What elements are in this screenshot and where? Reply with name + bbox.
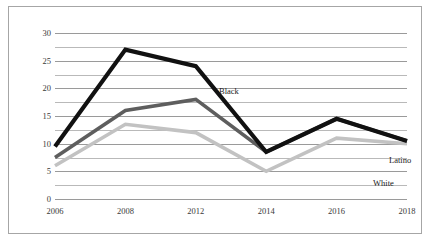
x-axis-tick-label: 2018 — [399, 207, 416, 216]
series-layer — [55, 33, 407, 199]
y-axis-tick-label: 20 — [21, 84, 51, 93]
y-axis: 051015202530 — [17, 33, 51, 199]
y-axis-tick-label: 0 — [21, 195, 51, 204]
x-axis-tick-label: 2008 — [117, 207, 134, 216]
gridline-major — [55, 199, 407, 200]
x-axis-tick-label: 2014 — [258, 207, 275, 216]
x-axis-tick-label: 2016 — [328, 207, 345, 216]
y-axis-tick-label: 5 — [21, 167, 51, 176]
plot-area — [55, 33, 407, 199]
x-axis-tick-label: 2012 — [187, 207, 204, 216]
chart-frame: 051015202530 200620082012201420162018 Bl… — [8, 6, 422, 234]
x-axis-tick-label: 2006 — [47, 207, 64, 216]
y-axis-tick-label: 10 — [21, 139, 51, 148]
series-line-white — [55, 124, 407, 171]
y-axis-tick-label: 25 — [21, 56, 51, 65]
x-axis: 200620082012201420162018 — [55, 207, 407, 227]
series-label-latino: Latino — [389, 156, 411, 165]
series-label-white: White — [373, 179, 394, 188]
series-label-black: Black — [219, 87, 239, 96]
y-axis-tick-label: 15 — [21, 112, 51, 121]
y-axis-tick-label: 30 — [21, 29, 51, 38]
